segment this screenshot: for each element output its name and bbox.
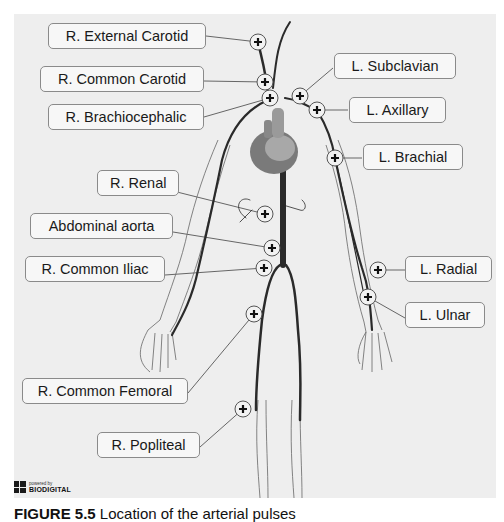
heart-icon <box>250 108 298 174</box>
plus-icons <box>239 38 382 413</box>
brand-text: BIODIGITAL <box>29 487 71 493</box>
biodigital-logo: powered by BIODIGITAL <box>14 481 71 493</box>
label-r-external-carotid: R. External Carotid <box>48 23 206 49</box>
label-r-popliteal: R. Popliteal <box>97 432 200 458</box>
biodigital-logo-icon <box>14 481 26 493</box>
figure-caption: FIGURE 5.5 Location of the arterial puls… <box>14 505 296 522</box>
label-r-common-iliac: R. Common Iliac <box>25 256 165 282</box>
figure-number: FIGURE 5.5 <box>14 505 96 522</box>
figure-caption-text: Location of the arterial pulses <box>100 505 296 522</box>
label-abdominal-aorta: Abdominal aorta <box>30 213 173 239</box>
label-l-subclavian: L. Subclavian <box>334 53 456 79</box>
label-r-brachiocephalic: R. Brachiocephalic <box>48 104 204 130</box>
label-l-brachial: L. Brachial <box>363 144 463 170</box>
label-l-radial: L. Radial <box>405 256 492 282</box>
label-r-renal: R. Renal <box>97 170 179 196</box>
label-r-common-carotid: R. Common Carotid <box>40 66 204 92</box>
label-l-ulnar: L. Ulnar <box>405 302 485 328</box>
label-r-common-femoral: R. Common Femoral <box>22 378 188 404</box>
label-l-axillary: L. Axillary <box>349 97 446 123</box>
legs-outline <box>257 400 302 498</box>
